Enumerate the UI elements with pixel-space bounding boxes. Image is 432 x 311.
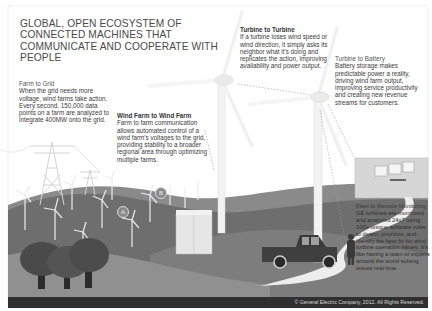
copyright-text: © General Electric Company, 2012. All Ri… <box>295 299 424 305</box>
callout-heading: Fleet to Remote Monitoring <box>356 203 430 210</box>
callout-fleet-remote-monitoring: Fleet to Remote Monitoring GE turbines a… <box>356 203 430 272</box>
callout-farm-to-grid: Farm to Grid When the grid needs more vo… <box>19 80 109 124</box>
callout-body: If a turbine loses wind speed or wind di… <box>240 33 338 69</box>
callout-heading: Turbine to Battery <box>335 55 425 62</box>
infographic-title: GLOBAL, OPEN ECOSYSTEM OF CONNECTED MACH… <box>20 18 220 64</box>
callout-body: Battery storage makes predictable power … <box>335 62 425 106</box>
marker-a: A <box>117 206 129 218</box>
marker-b: B <box>155 187 167 199</box>
callout-turbine-to-battery: Turbine to Battery Battery storage makes… <box>335 55 425 106</box>
callout-wind-farm-to-wind-farm: Wind Farm to Wind Farm Farm to farm comm… <box>117 112 209 163</box>
callout-heading: Turbine to Turbine <box>240 26 338 33</box>
callout-heading: Wind Farm to Wind Farm <box>117 112 209 119</box>
callout-body: When the grid needs more voltage, wind f… <box>19 87 109 123</box>
callout-body: GE turbines are monitored and analyzed 2… <box>356 210 430 272</box>
callout-turbine-to-turbine: Turbine to Turbine If a turbine loses wi… <box>240 26 338 70</box>
copyright-bar: © General Electric Company, 2012. All Ri… <box>8 297 428 308</box>
callout-heading: Farm to Grid <box>19 80 109 87</box>
callout-body: Farm to farm communication allows automa… <box>117 119 209 163</box>
infographic-canvas: A B GLOBAL, OPEN ECOSYSTEM OF CONNECTED … <box>0 0 432 311</box>
